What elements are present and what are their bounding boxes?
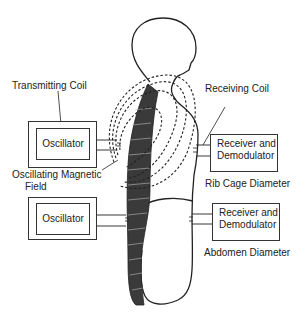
transmitting-coil-label: Transmitting Coil bbox=[12, 80, 87, 92]
receiver-top-line2: Demodulator bbox=[217, 150, 277, 162]
field-leader bbox=[102, 160, 118, 170]
receiver-top-box: Receiver and Demodulator bbox=[210, 134, 278, 172]
receiving-coil-label: Receiving Coil bbox=[205, 83, 269, 95]
bottom-receiver-wires bbox=[192, 214, 212, 224]
oscillator-bottom-label: Oscillator bbox=[42, 213, 84, 225]
receiver-bottom-line1: Receiver and bbox=[219, 207, 279, 219]
oscillating-field-label-line2: Field bbox=[25, 181, 47, 193]
rib-cage-diameter-label: Rib Cage Diameter bbox=[205, 178, 290, 190]
oscillator-bottom-box: Oscillator bbox=[36, 203, 90, 235]
receiver-top-line1: Receiver and bbox=[217, 138, 277, 150]
receiver-bottom-box: Receiver and Demodulator bbox=[212, 203, 280, 241]
abdomen-diameter-label: Abdomen Diameter bbox=[204, 247, 290, 259]
oscillator-top-box: Oscillator bbox=[36, 128, 90, 160]
receiver-bottom-line2: Demodulator bbox=[219, 219, 279, 231]
oscillating-field-label-line1: Oscillating Magnetic bbox=[12, 169, 101, 181]
spine-icon bbox=[127, 84, 158, 305]
oscillator-top-label: Oscillator bbox=[42, 138, 84, 150]
bottom-oscillator-wires bbox=[96, 215, 126, 226]
